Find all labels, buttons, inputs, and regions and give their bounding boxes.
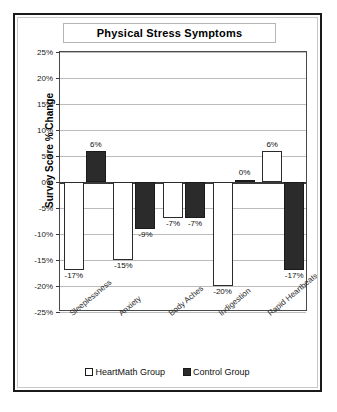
chart-legend: HeartMath GroupControl Group xyxy=(15,367,320,377)
y-axis-tick-label: -25% xyxy=(19,308,58,317)
legend-label: HeartMath Group xyxy=(95,367,165,377)
y-axis-tick-mark xyxy=(56,234,60,235)
y-axis-tick-label: 10% xyxy=(19,126,58,135)
bar-value-label: 0% xyxy=(227,168,263,177)
bar xyxy=(185,182,205,218)
bar-value-label: -9% xyxy=(127,230,163,239)
gridline xyxy=(60,234,306,235)
y-axis-tick-mark xyxy=(56,104,60,105)
y-axis-tick-label: -10% xyxy=(19,230,58,239)
y-axis-tick-label: -5% xyxy=(19,204,58,213)
legend-item: Control Group xyxy=(183,367,250,377)
y-axis-tick-mark xyxy=(56,260,60,261)
gridline xyxy=(60,52,306,53)
y-axis-tick-mark xyxy=(56,286,60,287)
y-axis-tick-label: 0% xyxy=(19,178,58,187)
y-axis-tick-label: -15% xyxy=(19,256,58,265)
bar xyxy=(163,182,183,218)
bar-value-label: -7% xyxy=(177,219,213,228)
legend-swatch-icon xyxy=(183,368,191,376)
gridline xyxy=(60,208,306,209)
bar xyxy=(235,180,255,183)
bar-value-label: -15% xyxy=(105,261,141,270)
y-axis-tick-mark xyxy=(56,52,60,53)
y-axis-tick-mark xyxy=(56,156,60,157)
y-axis-tick-label: 15% xyxy=(19,100,58,109)
bar xyxy=(86,151,106,182)
bar xyxy=(213,182,233,286)
bar xyxy=(284,182,304,270)
plot-area: 25%20%15%10%5%0%-5%-10%-15%-20%-25%-17%6… xyxy=(59,51,307,311)
bar xyxy=(113,182,133,260)
bar xyxy=(64,182,84,270)
y-axis-tick-mark xyxy=(56,130,60,131)
gridline xyxy=(60,130,306,131)
gridline xyxy=(60,78,306,79)
y-axis-tick-label: 20% xyxy=(19,74,58,83)
zero-axis-line xyxy=(60,182,306,184)
chart-frame: Physical Stress Symptoms Survey Score % … xyxy=(13,13,322,392)
legend-label: Control Group xyxy=(193,367,250,377)
x-axis-category-labels: SleeplessnessAnxietyBody AchesIndigestio… xyxy=(59,311,307,371)
bar-value-label: 6% xyxy=(254,140,290,149)
y-axis-tick-label: -20% xyxy=(19,282,58,291)
page-title: Physical Stress Symptoms xyxy=(97,27,242,39)
y-axis-title: Survey Score % Change xyxy=(44,61,55,241)
y-axis-tick-label: 5% xyxy=(19,152,58,161)
chart-title-box: Physical Stress Symptoms xyxy=(63,23,276,43)
legend-item: HeartMath Group xyxy=(85,367,165,377)
gridline xyxy=(60,104,306,105)
y-axis-tick-mark xyxy=(56,78,60,79)
y-axis-tick-mark xyxy=(56,208,60,209)
y-axis-tick-label: 25% xyxy=(19,48,58,57)
legend-swatch-icon xyxy=(85,368,93,376)
bar-value-label: -17% xyxy=(56,271,92,280)
bar xyxy=(262,151,282,182)
bar-value-label: 6% xyxy=(78,140,114,149)
bar xyxy=(135,182,155,229)
gridline xyxy=(60,260,306,261)
